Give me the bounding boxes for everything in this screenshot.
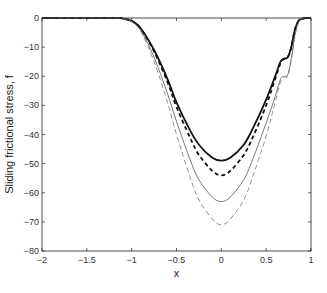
x-tick-label: −0.5	[168, 255, 186, 265]
x-tick-label: −1.5	[78, 255, 96, 265]
series-thin-solid	[42, 18, 311, 202]
y-tick-label: −40	[24, 130, 39, 140]
plot-frame	[42, 18, 311, 251]
x-tick-label: 1	[308, 255, 313, 265]
series-thick-dashed	[42, 18, 311, 175]
y-tick-label: −10	[24, 42, 39, 52]
y-tick-label: −50	[24, 159, 39, 169]
x-axis-label: x	[174, 267, 180, 279]
x-tick-label: −2	[37, 255, 47, 265]
x-tick-label: 0.5	[260, 255, 273, 265]
y-axis: 0−10−20−30−40−50−60−70−80	[24, 13, 311, 256]
x-tick-label: −1	[127, 255, 137, 265]
y-tick-label: −30	[24, 100, 39, 110]
line-chart: −2−1.5−1−0.500.51 0−10−20−30−40−50−60−70…	[0, 0, 327, 293]
x-axis: −2−1.5−1−0.500.51	[37, 18, 314, 265]
y-tick-label: −20	[24, 71, 39, 81]
series-layer	[42, 18, 311, 225]
y-tick-label: −80	[24, 246, 39, 256]
y-tick-label: −60	[24, 188, 39, 198]
x-tick-label: 0	[219, 255, 224, 265]
y-tick-label: 0	[34, 13, 39, 23]
y-axis-label: Sliding frictional stress, f	[3, 74, 15, 194]
series-thick-solid	[42, 18, 311, 161]
y-tick-label: −70	[24, 217, 39, 227]
